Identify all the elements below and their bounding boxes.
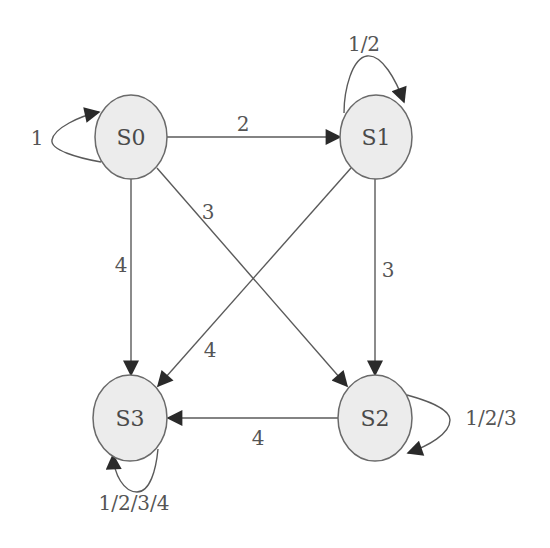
edge-label-s3-s3: 1/2/3/4 bbox=[98, 491, 169, 515]
edge-label-s1-s1: 1/2 bbox=[348, 32, 380, 56]
edge-line bbox=[157, 168, 347, 386]
edge-label-s2-s2: 1/2/3 bbox=[465, 406, 517, 430]
node-label-s1: S1 bbox=[361, 125, 390, 150]
edge-label-s2-s3: 4 bbox=[252, 426, 265, 450]
edge-line bbox=[407, 395, 450, 453]
edge-s0-s2: 3 bbox=[157, 168, 347, 386]
edge-s2-s3: 4 bbox=[168, 418, 338, 450]
edge-s0-s0: 1 bbox=[31, 112, 101, 162]
node-label-s3: S3 bbox=[115, 406, 144, 431]
edge-s0-s1: 2 bbox=[167, 112, 340, 137]
edge-label-s1-s2: 3 bbox=[382, 258, 395, 282]
node-s2: S2 bbox=[338, 375, 412, 461]
edge-label-s0-s2: 3 bbox=[202, 200, 215, 224]
node-label-s0: S0 bbox=[116, 125, 145, 150]
edge-label-s0-s0: 1 bbox=[31, 126, 44, 150]
state-diagram: 1 2 3 4 1/2 3 4 1/2/3 4 1/2/3 bbox=[0, 0, 550, 548]
node-s3: S3 bbox=[93, 375, 167, 461]
edge-s1-s2: 3 bbox=[375, 179, 394, 375]
node-s0: S0 bbox=[95, 95, 167, 179]
edge-line bbox=[158, 168, 351, 386]
edge-s1-s3: 4 bbox=[158, 168, 351, 386]
node-s1: S1 bbox=[340, 95, 412, 179]
node-label-s2: S2 bbox=[360, 406, 389, 431]
edge-s0-s3: 4 bbox=[115, 179, 131, 375]
edge-label-s0-s1: 2 bbox=[237, 112, 250, 136]
edge-line bbox=[52, 112, 101, 162]
edge-label-s1-s3: 4 bbox=[204, 338, 217, 362]
edge-s2-s2: 1/2/3 bbox=[407, 395, 517, 453]
edge-label-s0-s3: 4 bbox=[115, 253, 128, 277]
